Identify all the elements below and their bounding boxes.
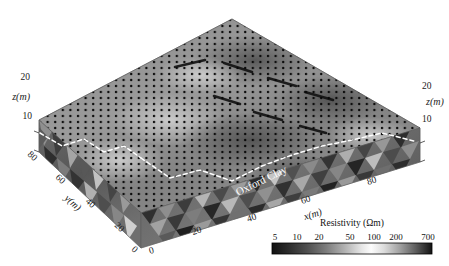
colorbar-gradient-bar	[272, 243, 432, 254]
z-right-tick-10: 10	[422, 114, 432, 124]
x-tick-40: 40	[246, 211, 258, 223]
z-right-tick-20: 20	[422, 81, 432, 91]
z-left-axis-label: z(m)	[11, 91, 30, 103]
figure-canvas: 20 z(m) 10 20 z(m) 10 80 60 40 20 0 y(m)…	[0, 0, 449, 266]
colorbar-tick-100: 100	[367, 232, 381, 242]
colorbar-tick-10: 10	[293, 232, 303, 242]
colorbar-title: Resistivity (Ωm)	[320, 218, 384, 229]
figure-3d-resistivity-model: 20 z(m) 10 20 z(m) 10 80 60 40 20 0 y(m)…	[0, 0, 449, 266]
x-tick-0: 0	[148, 245, 156, 256]
y-axis-label: y(m)	[61, 192, 84, 214]
colorbar-tick-50: 50	[346, 232, 356, 242]
z-left-tick-20: 20	[21, 72, 31, 82]
colorbar-tick-200: 200	[389, 232, 403, 242]
colorbar-tick-700: 700	[421, 232, 435, 242]
z-right-axis-label: z(m)	[425, 96, 444, 108]
z-left-tick-10: 10	[23, 111, 33, 121]
colorbar: Resistivity (Ωm) 5 10 20 50 100 200 700	[272, 218, 435, 254]
colorbar-tick-5: 5	[273, 232, 278, 242]
colorbar-tick-20: 20	[315, 232, 325, 242]
y-tick-0: 0	[130, 244, 140, 255]
x-tick-80: 80	[366, 174, 378, 186]
